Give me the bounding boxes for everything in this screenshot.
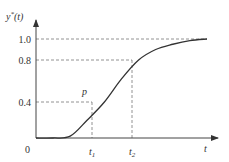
y-tick-label: 0.4 (19, 97, 32, 108)
point-p-label: p (81, 86, 87, 97)
origin-label: 0 (25, 144, 30, 155)
y-label-arg: (t) (14, 11, 24, 23)
y-tick-label: 1.0 (19, 34, 32, 45)
x-axis-label: t (204, 143, 207, 154)
chart: 0.40.81.0 t1t2 y*(t) 0 t p (0, 0, 229, 162)
y-tick-label: 0.8 (19, 55, 32, 66)
y-axis-label: y*(t) (5, 10, 24, 23)
t1-label: t1 (89, 146, 95, 159)
guide-lines (36, 39, 207, 138)
response-curve (36, 39, 207, 138)
t2-label: t2 (129, 146, 136, 159)
